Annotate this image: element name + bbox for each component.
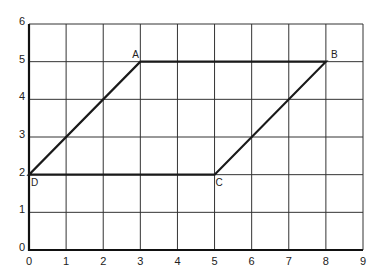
y-tick-label: 6	[19, 15, 25, 27]
vertex-label-d: D	[31, 177, 38, 188]
y-tick-label: 0	[19, 241, 25, 253]
y-tick-label: 1	[19, 203, 25, 215]
x-tick-label: 1	[63, 255, 69, 267]
x-tick-label: 2	[100, 255, 106, 267]
x-tick-label: 8	[323, 255, 329, 267]
vertex-label-a: A	[132, 49, 139, 60]
grid-lines	[29, 24, 363, 250]
vertex-label-b: B	[331, 49, 338, 60]
x-tick-label: 7	[286, 255, 292, 267]
y-tick-label: 5	[19, 53, 25, 65]
x-tick-label: 5	[211, 255, 217, 267]
y-tick-label: 2	[19, 166, 25, 178]
coordinate-grid: 0123456789 0123456 ABCD	[0, 0, 381, 277]
x-tick-label: 3	[137, 255, 143, 267]
x-axis-tick-labels: 0123456789	[26, 255, 366, 267]
y-tick-label: 4	[19, 90, 25, 102]
x-tick-label: 9	[360, 255, 366, 267]
x-tick-label: 6	[249, 255, 255, 267]
x-tick-label: 0	[26, 255, 32, 267]
y-axis-tick-labels: 0123456	[19, 15, 25, 253]
vertex-labels: ABCD	[31, 49, 338, 188]
vertex-label-c: C	[216, 177, 223, 188]
x-tick-label: 4	[174, 255, 180, 267]
y-tick-label: 3	[19, 128, 25, 140]
